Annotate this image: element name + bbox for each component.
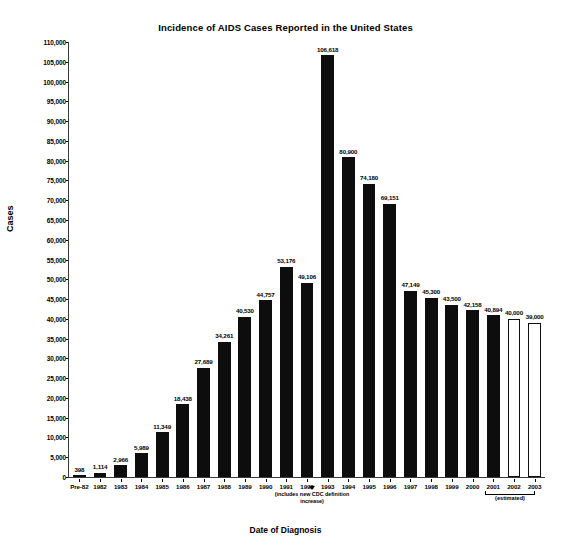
x-axis-tickmark xyxy=(410,479,411,482)
x-axis-tickmark xyxy=(328,479,329,482)
bar-1986[interactable]: 18,438 xyxy=(176,42,189,477)
y-axis-label: Cases xyxy=(5,205,15,232)
y-axis-tick: 20,000 xyxy=(47,394,66,401)
bar-1982[interactable]: 1,114 xyxy=(94,42,107,477)
bar-2000[interactable]: 42,158 xyxy=(466,42,479,477)
x-axis-tickmark xyxy=(493,479,494,482)
y-axis-tick: 65,000 xyxy=(47,216,66,223)
bar-rect xyxy=(445,305,458,477)
y-axis-tick: 40,000 xyxy=(47,315,66,322)
y-axis-tick: 15,000 xyxy=(47,414,66,421)
bar-rect xyxy=(404,291,417,477)
bar-1999[interactable]: 43,500 xyxy=(445,42,458,477)
x-axis-tick-2003: 2003 xyxy=(512,483,558,490)
bar-1991[interactable]: 53,176 xyxy=(280,42,293,477)
bar-rect xyxy=(487,315,500,477)
estimated-annotation: (estimated) xyxy=(479,495,541,501)
chart-container: Incidence of AIDS Cases Reported in the … xyxy=(0,0,571,546)
x-axis-tickmark xyxy=(224,479,225,482)
x-axis-tickmark xyxy=(473,479,474,482)
plot-area: 3981,1142,9665,98911,34918,43827,68934,2… xyxy=(69,42,545,477)
y-axis-tick: 45,000 xyxy=(47,296,66,303)
y-axis-tick-labels: 05,00010,00015,00020,00025,00030,00035,0… xyxy=(22,42,66,477)
x-axis-tickmark xyxy=(204,479,205,482)
y-axis-tick: 85,000 xyxy=(47,137,66,144)
x-axis-tickmark xyxy=(431,479,432,482)
x-axis-tickmark xyxy=(514,479,515,482)
bar-1983[interactable]: 2,966 xyxy=(114,42,127,477)
bar-1996[interactable]: 69,151 xyxy=(383,42,396,477)
bar-rect xyxy=(94,473,107,477)
bar-rect xyxy=(176,404,189,477)
y-axis-tick: 35,000 xyxy=(47,335,66,342)
bar-rect xyxy=(218,342,231,477)
y-axis-tick: 10,000 xyxy=(47,434,66,441)
x-axis-tickmark xyxy=(162,479,163,482)
x-axis-label: Date of Diagnosis xyxy=(0,525,571,535)
bar-rect xyxy=(466,310,479,477)
bar-rect xyxy=(425,298,438,477)
x-axis-tickmark xyxy=(307,479,308,482)
x-axis-tickmark xyxy=(183,479,184,482)
x-axis-tickmark xyxy=(79,479,80,482)
bar-rect xyxy=(528,323,541,477)
bar-1993[interactable]: 106,618 xyxy=(321,42,334,477)
bar-1989[interactable]: 40,530 xyxy=(238,42,251,477)
bar-rect xyxy=(383,204,396,477)
y-axis-tick: 75,000 xyxy=(47,177,66,184)
x-axis-tickmark xyxy=(266,479,267,482)
bar-1994[interactable]: 80,900 xyxy=(342,42,355,477)
bar-1995[interactable]: 74,180 xyxy=(363,42,376,477)
y-axis-tick: 30,000 xyxy=(47,355,66,362)
x-axis-tickmark xyxy=(452,479,453,482)
y-axis-tick: 80,000 xyxy=(47,157,66,164)
bar-Pre-82[interactable]: 398 xyxy=(73,42,86,477)
cdc-definition-annotation: (includes new CDC definition increase) xyxy=(274,491,350,504)
cdc-definition-arrow-icon xyxy=(309,486,315,490)
x-axis-tickmark xyxy=(348,479,349,482)
bar-rect xyxy=(238,317,251,477)
y-axis-tick: 95,000 xyxy=(47,98,66,105)
x-axis-tickmark xyxy=(390,479,391,482)
y-axis-tick: 70,000 xyxy=(47,197,66,204)
bar-rect xyxy=(301,283,314,477)
x-axis-tickmark xyxy=(100,479,101,482)
bar-1997[interactable]: 47,149 xyxy=(404,42,417,477)
x-axis-tickmark xyxy=(121,479,122,482)
bar-value-label: 39,000 xyxy=(515,313,553,320)
bar-2001[interactable]: 40,894 xyxy=(487,42,500,477)
chart-title: Incidence of AIDS Cases Reported in the … xyxy=(0,22,571,33)
y-axis-tick: 90,000 xyxy=(47,118,66,125)
bar-2002[interactable]: 40,000 xyxy=(508,42,521,477)
bar-1998[interactable]: 45,300 xyxy=(425,42,438,477)
bar-rect xyxy=(156,432,169,477)
y-axis-tick: 110,000 xyxy=(44,39,66,46)
x-axis-tickmark xyxy=(369,479,370,482)
bar-rect xyxy=(508,319,521,477)
y-axis-tick: 55,000 xyxy=(47,256,66,263)
bar-1984[interactable]: 5,989 xyxy=(135,42,148,477)
bar-rect xyxy=(321,55,334,477)
bar-rect xyxy=(114,465,127,477)
y-axis-tick: 60,000 xyxy=(47,236,66,243)
y-axis-tick: 5,000 xyxy=(50,454,66,461)
bar-rect xyxy=(197,368,210,477)
bar-rect xyxy=(342,157,355,477)
bar-1988[interactable]: 34,261 xyxy=(218,42,231,477)
x-axis-tickmark xyxy=(245,479,246,482)
x-axis-tickmark xyxy=(141,479,142,482)
x-axis-tickmark xyxy=(535,479,536,482)
bar-1992[interactable]: 49,106 xyxy=(301,42,314,477)
bar-1987[interactable]: 27,689 xyxy=(197,42,210,477)
x-axis-tickmark xyxy=(286,479,287,482)
bar-rect xyxy=(259,300,272,477)
bar-1985[interactable]: 11,349 xyxy=(156,42,169,477)
bar-rect xyxy=(280,267,293,477)
bar-rect xyxy=(73,475,86,477)
y-axis-tick: 50,000 xyxy=(47,276,66,283)
bar-2003[interactable]: 39,000 xyxy=(528,42,541,477)
bar-rect xyxy=(363,184,376,477)
y-axis-tick: 25,000 xyxy=(47,375,66,382)
bar-rect xyxy=(135,453,148,477)
y-axis-tick: 105,000 xyxy=(43,58,66,65)
